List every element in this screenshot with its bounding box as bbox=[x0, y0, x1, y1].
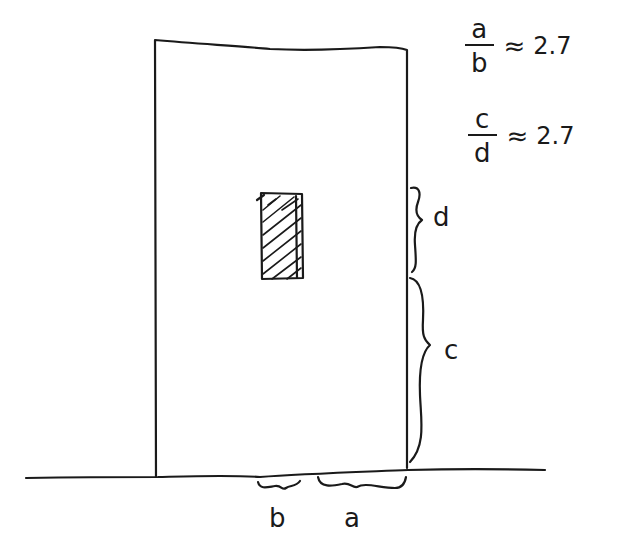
brace-a bbox=[318, 477, 406, 488]
ratio-value: 2.7 bbox=[533, 32, 571, 60]
ground-line bbox=[26, 469, 545, 478]
approx-symbol: ≈ bbox=[504, 31, 526, 61]
approx-symbol: ≈ bbox=[507, 121, 529, 151]
brace-c bbox=[410, 278, 430, 462]
hatched-window bbox=[257, 193, 303, 279]
fraction-numerator: c bbox=[469, 106, 495, 134]
ratio-value: 2.7 bbox=[536, 122, 574, 150]
label-b: b bbox=[269, 505, 286, 531]
ratio-c-over-d: c d ≈ 2.7 bbox=[468, 106, 574, 166]
fraction-denominator: d bbox=[468, 134, 497, 166]
fraction-numerator: a bbox=[465, 16, 493, 44]
fraction-c-d: c d bbox=[468, 106, 497, 166]
label-d: d bbox=[433, 204, 450, 230]
brace-d bbox=[411, 188, 422, 272]
fraction-denominator: b bbox=[465, 44, 494, 76]
tall-rectangle bbox=[155, 40, 407, 477]
fraction-a-b: a b bbox=[465, 16, 494, 76]
diagram-canvas bbox=[0, 0, 621, 560]
ratio-a-over-b: a b ≈ 2.7 bbox=[465, 16, 571, 76]
label-a: a bbox=[344, 505, 360, 531]
brace-b bbox=[258, 481, 300, 489]
label-c: c bbox=[444, 337, 458, 363]
